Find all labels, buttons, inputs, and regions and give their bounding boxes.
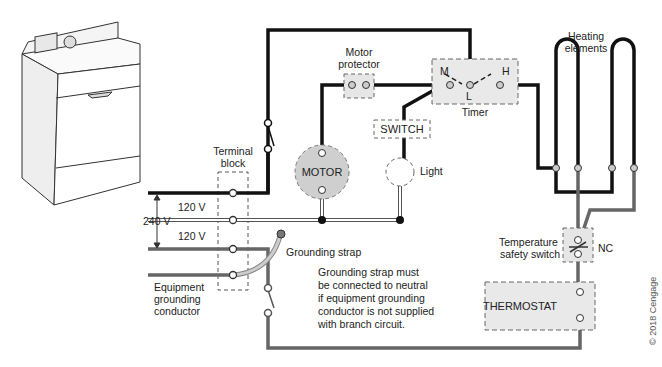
timer-label: Timer	[462, 106, 489, 118]
ground-wire	[148, 230, 285, 275]
svg-text:conductor: conductor	[154, 305, 201, 317]
svg-text:conductor is not supplied: conductor is not supplied	[318, 305, 434, 317]
voltage-240: 240 V	[143, 215, 170, 227]
timer-m-label: M	[440, 65, 449, 77]
voltage-120-top: 120 V	[178, 201, 205, 213]
svg-text:Grounding strap must: Grounding strap must	[318, 266, 419, 278]
svg-text:protector: protector	[338, 58, 380, 70]
nc-label: NC	[598, 242, 614, 254]
svg-text:elements: elements	[565, 42, 608, 54]
light-bulb-icon	[386, 158, 414, 186]
svg-text:be connected to neutral: be connected to neutral	[318, 279, 428, 291]
wiring-diagram: Terminal block 120 V 240 V 120 V Motor p…	[0, 0, 662, 367]
switch-label: SWITCH	[380, 123, 423, 135]
timer-l-label: L	[466, 90, 472, 102]
svg-text:grounding: grounding	[154, 293, 201, 305]
motor-label: MOTOR	[302, 166, 343, 178]
equipment-grounding-conductor-label: Equipment	[154, 281, 204, 293]
copyright: © 2018 Cengage	[648, 277, 658, 345]
terminal-block-label: Terminal	[213, 145, 253, 157]
motor-protector-label: Motor	[346, 46, 373, 58]
grounding-strap-label: Grounding strap	[286, 246, 361, 258]
light-label: Light	[420, 165, 443, 177]
grounding-screw-icon	[277, 230, 285, 238]
heating-elements-label: Heating	[568, 30, 604, 42]
dryer-illustration	[22, 22, 140, 205]
thermostat-label: THERMOSTAT	[483, 300, 557, 312]
bottom-switch	[265, 285, 275, 317]
timer-h-label: H	[502, 65, 510, 77]
svg-text:safety switch: safety switch	[500, 248, 560, 260]
svg-text:if equipment grounding: if equipment grounding	[318, 292, 425, 304]
svg-text:with branch circuit.: with branch circuit.	[317, 318, 405, 330]
temperature-safety-switch-label: Temperature	[499, 236, 558, 248]
voltage-120-bottom: 120 V	[178, 230, 205, 242]
svg-text:block: block	[221, 157, 246, 169]
grounding-note: Grounding strap must be connected to neu…	[317, 266, 434, 330]
terminals	[230, 190, 237, 279]
